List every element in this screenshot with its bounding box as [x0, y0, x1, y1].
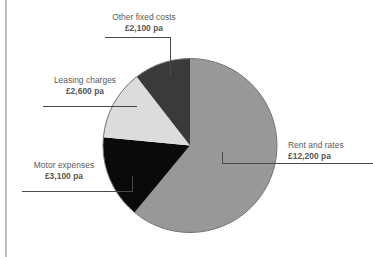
label-other-fixed-costs: Other fixed costs £2,100 pa — [92, 12, 196, 33]
label-leasing-charges-name: Leasing charges — [33, 75, 137, 86]
label-motor-expenses: Motor expenses £3,100 pa — [12, 160, 116, 181]
label-rent-and-rates-name: Rent and rates — [288, 140, 373, 151]
label-leasing-charges-value: £2,600 pa — [33, 86, 137, 97]
label-other-fixed-costs-name: Other fixed costs — [92, 12, 196, 23]
label-rent-and-rates: Rent and rates £12,200 pa — [288, 140, 373, 161]
label-rent-and-rates-value: £12,200 pa — [288, 151, 373, 162]
label-leasing-charges: Leasing charges £2,600 pa — [33, 75, 137, 96]
label-motor-expenses-name: Motor expenses — [12, 160, 116, 171]
label-motor-expenses-value: £3,100 pa — [12, 171, 116, 182]
label-other-fixed-costs-value: £2,100 pa — [92, 23, 196, 34]
pie-chart-svg — [0, 0, 373, 257]
pie-chart-figure: Other fixed costs £2,100 pa Leasing char… — [0, 0, 373, 257]
